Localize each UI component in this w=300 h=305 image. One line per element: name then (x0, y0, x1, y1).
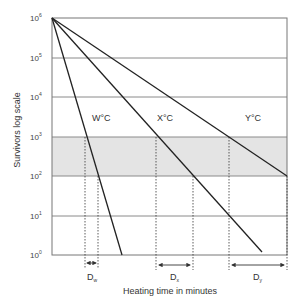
y-tick-labels: 100 101 102 103 104 105 106 (30, 12, 42, 260)
svg-text:106: 106 (30, 12, 42, 23)
shaded-band (52, 137, 287, 176)
label-dx: Dx (170, 272, 180, 283)
d-arrows (87, 263, 284, 265)
x-axis-title: Heating time in minutes (123, 286, 218, 296)
label-w: W°C (92, 113, 111, 123)
label-x: X°C (157, 113, 174, 123)
survivor-curve-chart: Dw Dx Dy W°C X°C Y°C 100 101 102 103 104… (0, 0, 300, 305)
line-x (52, 18, 262, 252)
svg-text:102: 102 (30, 170, 42, 181)
label-y: Y°C (245, 113, 262, 123)
svg-text:105: 105 (30, 52, 42, 63)
svg-text:100: 100 (30, 249, 42, 260)
label-dw: Dw (87, 272, 98, 283)
svg-text:104: 104 (30, 91, 42, 102)
svg-text:101: 101 (30, 210, 42, 221)
y-axis-title: Survivors log scale (12, 92, 22, 168)
svg-text:103: 103 (30, 131, 42, 142)
label-dy: Dy (253, 272, 263, 283)
